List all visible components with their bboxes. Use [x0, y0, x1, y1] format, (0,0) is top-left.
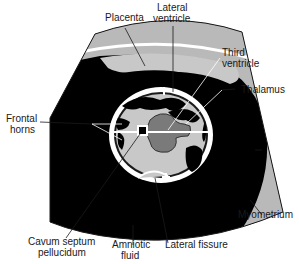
label-lateral-ventricle-line2: ventricle: [153, 13, 190, 24]
label-thalamus: Thalamus: [241, 84, 285, 95]
label-placenta: Placenta: [105, 12, 144, 23]
label-third-ventricle-line1: Third: [222, 47, 245, 58]
label-myometrium: Myometrium: [238, 209, 293, 220]
cavum-septum-pellucidum: [138, 126, 147, 135]
label-lateral-ventricle-line1: Lateral: [157, 2, 188, 13]
label-amniotic-line1: Amniotic: [112, 239, 150, 250]
label-cavum-line1: Cavum septum: [28, 236, 95, 247]
label-amniotic-line2: fluid: [121, 250, 139, 261]
label-lateral-fissure: Lateral fissure: [165, 239, 228, 250]
label-third-ventricle-line2: ventricle: [222, 58, 259, 69]
label-cavum-line2: pellucidum: [38, 247, 86, 258]
ultrasound-sector: [0, 0, 299, 264]
label-frontal-horns-line1: Frontal: [6, 113, 37, 124]
fetal-head-ultrasound-diagram: Placenta Lateral ventricle Third ventric…: [0, 0, 299, 264]
label-frontal-horns-line2: horns: [10, 124, 35, 135]
